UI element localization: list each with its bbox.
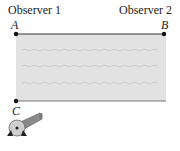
point-b-dot — [162, 32, 166, 36]
river-diagram — [0, 0, 180, 151]
river — [16, 34, 166, 101]
point-a-dot — [14, 32, 18, 36]
cannon-icon — [7, 113, 43, 136]
point-c-dot — [14, 99, 18, 103]
